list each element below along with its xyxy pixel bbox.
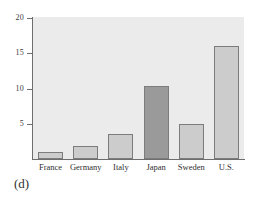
bar-france <box>38 152 63 159</box>
bar-u-s <box>214 46 239 159</box>
bar-slot <box>108 18 133 159</box>
bar-chart-figure: 5101520 FranceGermanyItalyJapanSwedenU.S… <box>0 0 256 201</box>
x-axis-label-france: France <box>33 162 68 172</box>
y-axis-tick: 5 <box>0 124 33 125</box>
bar-sweden <box>179 124 204 159</box>
y-axis-tick-label: 15 <box>0 49 24 57</box>
y-axis-tick: 20 <box>0 18 33 19</box>
x-axis-label-italy: Italy <box>103 162 138 172</box>
y-axis-tick-mark <box>27 53 33 54</box>
y-axis-tick: 15 <box>0 53 33 54</box>
y-axis-tick-label: 20 <box>0 14 24 22</box>
plot-area <box>33 17 244 159</box>
y-axis-tick-mark <box>27 124 33 125</box>
y-axis-tick-mark <box>27 89 33 90</box>
y-axis-tick-label: 5 <box>0 120 24 128</box>
x-axis-line <box>32 159 245 160</box>
bar-slot <box>144 18 169 159</box>
figure-caption: (d) <box>14 176 29 191</box>
y-axis-tick-label: 10 <box>0 85 24 93</box>
bar-italy <box>108 134 133 159</box>
bar-slot <box>214 18 239 159</box>
bar-japan <box>144 86 169 159</box>
x-axis-label-sweden: Sweden <box>174 162 209 172</box>
bar-slot <box>38 18 63 159</box>
bar-slot <box>179 18 204 159</box>
y-axis-tick-mark <box>27 18 33 19</box>
y-axis-tick: 10 <box>0 89 33 90</box>
x-axis-label-japan: Japan <box>139 162 174 172</box>
x-axis-label-u-s: U.S. <box>209 162 244 172</box>
bar-germany <box>73 146 98 159</box>
bar-slot <box>73 18 98 159</box>
x-axis-label-germany: Germany <box>68 162 103 172</box>
